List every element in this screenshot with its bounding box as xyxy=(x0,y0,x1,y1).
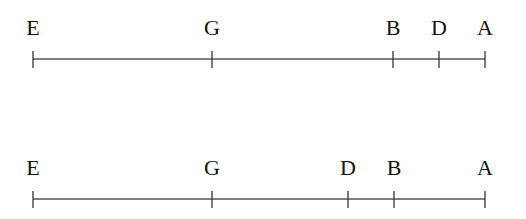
point-label-d: D xyxy=(431,15,447,40)
point-label-g: G xyxy=(204,155,220,180)
point-label-b: B xyxy=(387,155,402,180)
point-label-d: D xyxy=(340,155,356,180)
point-label-e: E xyxy=(26,15,39,40)
number-line-diagram: EGBDA EGDBA xyxy=(0,0,526,219)
point-label-e: E xyxy=(26,155,39,180)
point-label-g: G xyxy=(204,15,220,40)
top-number-line: EGBDA xyxy=(26,15,493,68)
bottom-number-line: EGDBA xyxy=(26,155,493,208)
point-label-a: A xyxy=(477,155,493,180)
point-label-b: B xyxy=(386,15,401,40)
point-label-a: A xyxy=(477,15,493,40)
